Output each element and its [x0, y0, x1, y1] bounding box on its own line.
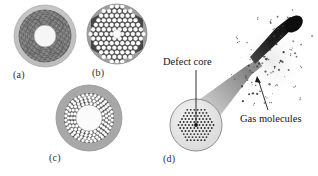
panel-label-b: (b): [92, 67, 104, 78]
panel-label-c: (c): [49, 152, 61, 163]
defect-core-label: Defect core: [163, 56, 212, 67]
figure-canvas: [0, 0, 318, 176]
panel-a-core: [34, 25, 56, 47]
panel-c-hollow-core-annular-fiber: [56, 85, 122, 151]
panel-d-inset-defect-core: [194, 123, 198, 127]
panel-c-hollow-core: [76, 105, 102, 131]
panel-b-hexagonal-lattice-fiber: [87, 4, 147, 64]
gas-molecules-label: Gas molecules: [240, 113, 302, 124]
panel-label-d: (d): [163, 153, 175, 164]
panel-label-a: (a): [13, 69, 25, 80]
panel-a-ring-structured-fiber: [14, 5, 76, 67]
panel-d-gas-plume: [238, 20, 306, 100]
panel-b-defect-core: [113, 30, 121, 38]
